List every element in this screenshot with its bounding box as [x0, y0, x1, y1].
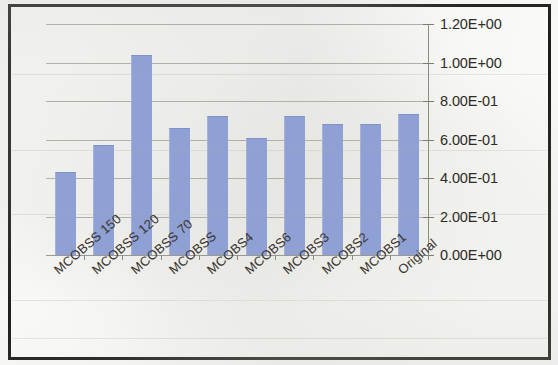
- x-axis-tick-mark: [161, 255, 162, 260]
- bar: [398, 114, 419, 255]
- bar: [322, 124, 343, 255]
- y-axis-tick-mark: [423, 24, 434, 25]
- bar: [284, 116, 305, 255]
- x-axis-tick-mark: [122, 255, 123, 260]
- y-axis-tick-mark: [423, 101, 434, 102]
- y-axis-tick-label: 1.00E+00: [440, 55, 502, 71]
- y-axis-tick-label: 0.00E+00: [440, 247, 502, 263]
- x-axis-tick-mark: [237, 255, 238, 260]
- bar-chart-figure: 0.00E+002.00E-014.00E-016.00E-018.00E-01…: [0, 0, 558, 365]
- y-axis-tick-label: 4.00E-01: [440, 170, 498, 186]
- x-axis-tick-mark: [199, 255, 200, 260]
- x-axis-tick-mark: [352, 255, 353, 260]
- bar: [131, 55, 152, 255]
- x-axis-tick-mark: [313, 255, 314, 260]
- bar: [93, 145, 114, 255]
- y-axis-tick-label: 2.00E-01: [440, 209, 498, 225]
- x-axis-tick-mark: [428, 255, 429, 260]
- x-axis-tick-mark: [275, 255, 276, 260]
- x-axis-tick-mark: [84, 255, 85, 260]
- y-axis-tick-label: 6.00E-01: [440, 132, 498, 148]
- bar: [360, 124, 381, 255]
- y-axis-tick-mark: [423, 140, 434, 141]
- bar-series: [46, 24, 428, 255]
- bar: [169, 128, 190, 255]
- y-axis-tick-mark: [423, 178, 434, 179]
- y-axis-tick-mark: [423, 63, 434, 64]
- bar: [246, 138, 267, 255]
- bar: [55, 172, 76, 255]
- y-axis-tick-label: 1.20E+00: [440, 16, 502, 32]
- y-axis-tick-label: 8.00E-01: [440, 93, 498, 109]
- y-axis-tick-mark: [423, 217, 434, 218]
- bar: [207, 116, 228, 255]
- x-axis-tick-mark: [390, 255, 391, 260]
- y-axis-tick-labels: 0.00E+002.00E-014.00E-016.00E-018.00E-01…: [440, 0, 550, 365]
